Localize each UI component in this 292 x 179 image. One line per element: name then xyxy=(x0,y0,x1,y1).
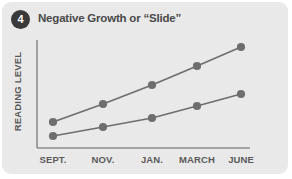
chart-series xyxy=(53,47,241,136)
x-axis-tick-jan: JAN. xyxy=(141,154,163,165)
x-axis-tick-sept: SEPT. xyxy=(40,154,67,165)
line-chart xyxy=(0,0,292,179)
x-axis-tick-june: JUNE xyxy=(228,154,254,165)
x-axis-tick-nov: NOV. xyxy=(92,154,115,165)
x-axis-tick-march: MARCH xyxy=(179,154,215,165)
